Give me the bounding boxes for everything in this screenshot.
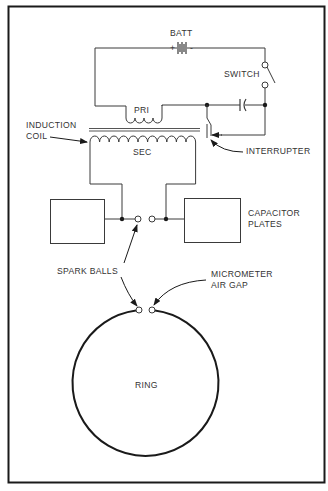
iron-core-icon: [89, 129, 200, 132]
battery-minus-label: -: [190, 43, 193, 53]
capacitor-plates-label-line1: CAPACITOR: [248, 208, 300, 218]
capacitor-plate-left: [51, 200, 105, 244]
interrupter-icon: [207, 105, 211, 138]
spark-balls-arrow-down: [121, 277, 137, 306]
primary-label: PRI: [134, 105, 149, 115]
battery-icon: [178, 42, 186, 54]
primary-circuit: [95, 48, 265, 135]
ring-label: RING: [135, 380, 158, 390]
spark-balls-label: SPARK BALLS: [57, 266, 118, 276]
circuit-diagram: BATT + - SWITCH PRI SEC INDUCTION COIL: [0, 0, 328, 491]
capacitor-plates-label-line2: PLATES: [248, 219, 282, 229]
spark-ball-left: [135, 216, 141, 222]
micrometer-label-line1: MICROMETER: [211, 269, 273, 279]
micrometer-arrow: [154, 280, 206, 305]
spark-balls-arrow-up: [124, 225, 137, 263]
induction-coil-label-line2: COIL: [26, 131, 47, 141]
induction-coil-label-line1: INDUCTION: [26, 120, 76, 130]
interrupter-label-arrow: [211, 140, 243, 152]
battery-plus-label: +: [170, 43, 175, 53]
induction-coil-arrow: [50, 137, 87, 142]
battery-label: BATT: [170, 28, 193, 38]
switch-label: SWITCH: [224, 69, 260, 79]
junction-dot: [263, 103, 267, 107]
ring-gap-ball-left: [136, 307, 142, 313]
junction-dot: [120, 217, 124, 221]
ring-gap-ball-right: [149, 307, 155, 313]
micrometer-label-line2: AIR GAP: [211, 280, 248, 290]
secondary-label: SEC: [133, 147, 152, 157]
switch-icon: [262, 62, 275, 88]
interrupter-label: INTERRUPTER: [246, 146, 310, 156]
capacitor-plate-right: [185, 199, 241, 243]
junction-dot: [164, 217, 168, 221]
spark-ball-right: [149, 216, 155, 222]
diagram-frame: [9, 7, 325, 483]
